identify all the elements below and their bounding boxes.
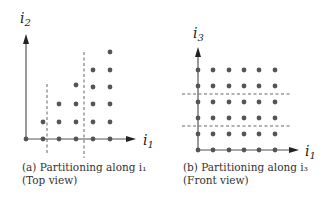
x-axis-label-i1: i1 xyxy=(305,143,316,161)
panel-b-caption: (b) Partitioning along i₃ (Front view) xyxy=(183,161,308,187)
y-axis-arrow-icon xyxy=(195,47,201,57)
x-axis-arrow-icon xyxy=(289,147,299,153)
caption-line-2: (Front view) xyxy=(183,174,308,187)
y-axis-label-i3: i3 xyxy=(193,25,204,43)
caption-line-1: (b) Partitioning along i₃ xyxy=(183,161,308,174)
panel-b-front-view: i3 i1 (b) Partitioning along i₃ (Front v… xyxy=(0,0,333,202)
panel-b-axes xyxy=(195,47,299,153)
panel-b-dots xyxy=(196,68,278,153)
